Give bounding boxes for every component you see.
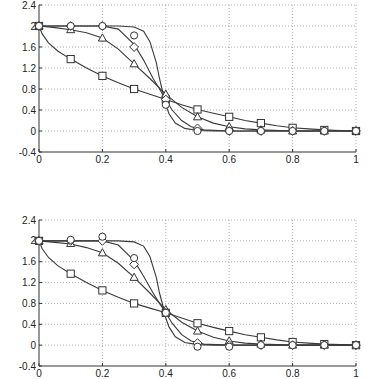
circle-marker bbox=[131, 254, 138, 261]
circle-marker bbox=[131, 32, 138, 39]
circle-marker bbox=[194, 127, 201, 134]
circle-marker bbox=[35, 237, 42, 244]
x-tick-label: 0.2 bbox=[95, 368, 109, 379]
circle-marker bbox=[67, 236, 74, 243]
square-marker bbox=[99, 72, 106, 79]
x-tick-label: 0.2 bbox=[95, 154, 109, 165]
y-tick-label: -0.4 bbox=[19, 147, 37, 158]
square-marker bbox=[131, 300, 138, 307]
circle-marker bbox=[226, 127, 233, 134]
circle-marker bbox=[289, 127, 296, 134]
circle-marker bbox=[352, 342, 359, 349]
x-tick-label: 0.6 bbox=[222, 154, 236, 165]
square-marker bbox=[131, 85, 138, 92]
y-tick-label: 0.8 bbox=[22, 298, 36, 309]
circle-marker bbox=[352, 127, 359, 134]
y-tick-label: 1.2 bbox=[22, 277, 36, 288]
chart-canvas: 00.20.40.60.81-0.400.40.81.21.622.4 00.2… bbox=[0, 0, 377, 379]
circle-marker bbox=[289, 342, 296, 349]
bottom-panel: 00.20.40.60.81-0.400.40.81.21.622.4 bbox=[19, 215, 361, 379]
y-tick-label: 0.8 bbox=[22, 84, 36, 95]
circle-marker bbox=[35, 22, 42, 29]
circle-marker bbox=[257, 127, 264, 134]
circle-marker bbox=[162, 309, 169, 316]
y-tick-label: 0.4 bbox=[22, 319, 36, 330]
y-tick-label: 0 bbox=[30, 126, 36, 137]
x-tick-label: 0.8 bbox=[286, 154, 300, 165]
x-tick-label: 0 bbox=[36, 154, 42, 165]
x-tick-label: 0.4 bbox=[159, 368, 173, 379]
circle-marker bbox=[194, 343, 201, 350]
circle-marker bbox=[321, 342, 328, 349]
circle-marker bbox=[257, 342, 264, 349]
figure: 00.20.40.60.81-0.400.40.81.21.622.4 00.2… bbox=[0, 0, 377, 379]
circle-marker bbox=[67, 22, 74, 29]
square-marker bbox=[226, 113, 233, 120]
square-marker bbox=[226, 327, 233, 334]
y-tick-label: 1.2 bbox=[22, 63, 36, 74]
y-tick-label: 2.4 bbox=[22, 0, 36, 11]
x-tick-label: 0.6 bbox=[222, 368, 236, 379]
y-tick-label: 0 bbox=[30, 340, 36, 351]
y-tick-label: 1.6 bbox=[22, 42, 36, 53]
circle-marker bbox=[99, 233, 106, 240]
circle-marker bbox=[99, 22, 106, 29]
triangle-marker bbox=[194, 327, 202, 334]
x-tick-label: 1 bbox=[353, 154, 359, 165]
x-tick-label: 0.8 bbox=[286, 368, 300, 379]
y-tick-label: -0.4 bbox=[19, 361, 37, 372]
y-tick-label: 1.6 bbox=[22, 256, 36, 267]
square-marker bbox=[67, 55, 74, 62]
square-marker bbox=[67, 270, 74, 277]
x-tick-label: 0 bbox=[36, 368, 42, 379]
x-tick-label: 0.4 bbox=[159, 154, 173, 165]
x-tick-label: 1 bbox=[353, 368, 359, 379]
circle-marker bbox=[162, 101, 169, 108]
square-marker bbox=[99, 287, 106, 294]
circle-marker bbox=[226, 343, 233, 350]
y-tick-label: 0.4 bbox=[22, 105, 36, 116]
top-panel: 00.20.40.60.81-0.400.40.81.21.622.4 bbox=[19, 0, 361, 165]
y-tick-label: 2.4 bbox=[22, 215, 36, 226]
square-marker bbox=[194, 320, 201, 327]
triangle-marker bbox=[194, 113, 202, 120]
circle-marker bbox=[321, 127, 328, 134]
